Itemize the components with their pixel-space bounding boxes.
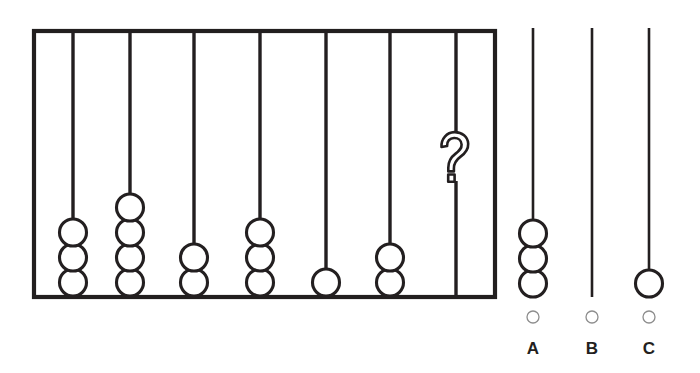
abacus-rod-5 <box>313 31 340 296</box>
rod-2-bead[interactable] <box>117 219 144 246</box>
rod-6-bead[interactable] <box>377 269 404 296</box>
rod-3-bead[interactable] <box>181 269 208 296</box>
rod-1-bead[interactable] <box>60 269 87 296</box>
abacus-rod-3 <box>181 31 208 296</box>
rod-1-bead[interactable] <box>60 219 87 246</box>
rod-2-bead[interactable] <box>117 244 144 271</box>
answer-options-layer[interactable]: ABC <box>520 28 663 358</box>
abacus-rods-layer <box>60 31 457 296</box>
option-B-label: B <box>586 339 598 358</box>
option-C[interactable]: C <box>636 28 663 358</box>
option-C-label: C <box>643 339 655 358</box>
abacus-rod-6 <box>377 31 404 296</box>
rod-2-bead[interactable] <box>117 194 144 221</box>
rod-6-bead[interactable] <box>377 244 404 271</box>
option-A-radio[interactable] <box>527 311 539 323</box>
option-A-bead[interactable] <box>520 245 547 272</box>
option-A-label: A <box>527 339 539 358</box>
puzzle-stage: ABC <box>0 0 700 373</box>
rod-4-bead[interactable] <box>247 244 274 271</box>
option-C-bead[interactable] <box>636 270 663 297</box>
option-B-radio[interactable] <box>586 311 598 323</box>
option-C-radio[interactable] <box>643 311 655 323</box>
abacus-rod-2 <box>117 31 144 296</box>
abacus-rod-1 <box>60 31 87 296</box>
rod-5-bead[interactable] <box>313 269 340 296</box>
rod-3-bead[interactable] <box>181 244 208 271</box>
option-A-bead[interactable] <box>520 270 547 297</box>
question-mark-icon <box>440 132 470 182</box>
rod-1-bead[interactable] <box>60 244 87 271</box>
option-B[interactable]: B <box>586 28 598 358</box>
abacus-sequence-puzzle: ABC <box>0 0 700 373</box>
rod-4-bead[interactable] <box>247 219 274 246</box>
rod-2-bead[interactable] <box>117 269 144 296</box>
option-A-bead[interactable] <box>520 220 547 247</box>
option-A[interactable]: A <box>520 28 547 358</box>
abacus-rod-4 <box>247 31 274 296</box>
rod-4-bead[interactable] <box>247 269 274 296</box>
